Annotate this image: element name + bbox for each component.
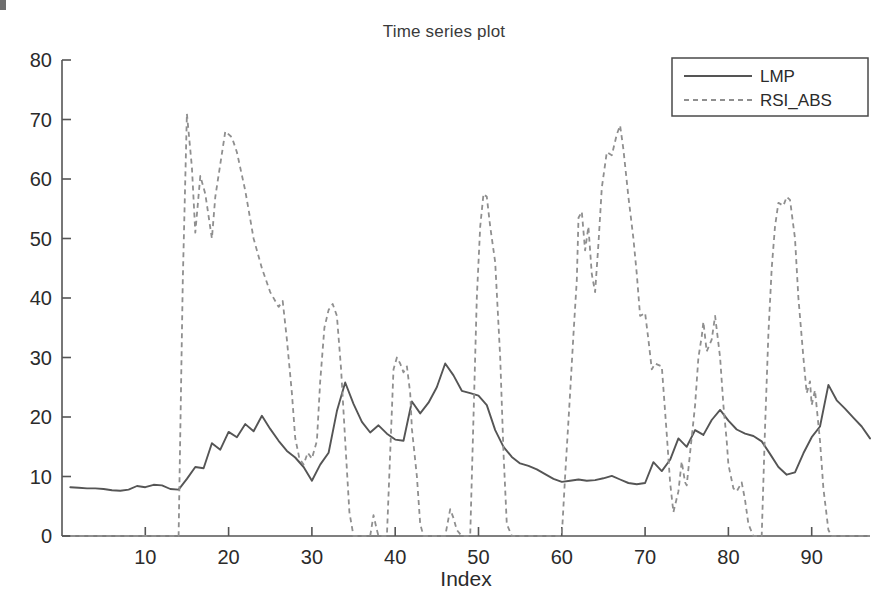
y-tick-label: 0 xyxy=(41,525,52,547)
x-tick-label: 80 xyxy=(717,546,739,568)
y-tick-label: 20 xyxy=(30,406,52,428)
x-tick-label: 50 xyxy=(467,546,489,568)
x-tick-label: 90 xyxy=(801,546,823,568)
x-axis-title: Index xyxy=(440,567,492,590)
figure-container: Time series plot 01020304050607080 10203… xyxy=(0,0,888,595)
x-tick-label: 40 xyxy=(384,546,406,568)
x-tick-label: 20 xyxy=(217,546,239,568)
x-tick-label: 70 xyxy=(634,546,656,568)
legend-label-rsi-abs: RSI_ABS xyxy=(760,91,832,110)
x-tick-label: 60 xyxy=(551,546,573,568)
y-tick-label: 40 xyxy=(30,287,52,309)
y-tick-label: 50 xyxy=(30,228,52,250)
y-tick-label: 80 xyxy=(30,49,52,71)
x-tick-label: 10 xyxy=(134,546,156,568)
y-tick-label: 60 xyxy=(30,168,52,190)
y-tick-label: 70 xyxy=(30,109,52,131)
x-tick-group: 102030405060708090 xyxy=(134,527,823,568)
legend-label-lmp: LMP xyxy=(760,67,795,86)
x-tick-label: 30 xyxy=(301,546,323,568)
series-line-lmp xyxy=(70,364,870,491)
legend: LMP RSI_ABS xyxy=(672,58,868,116)
y-tick-label: 30 xyxy=(30,347,52,369)
time-series-plot: 01020304050607080 102030405060708090 Ind… xyxy=(0,0,888,595)
y-tick-label: 10 xyxy=(30,466,52,488)
y-tick-group: 01020304050607080 xyxy=(30,49,71,547)
